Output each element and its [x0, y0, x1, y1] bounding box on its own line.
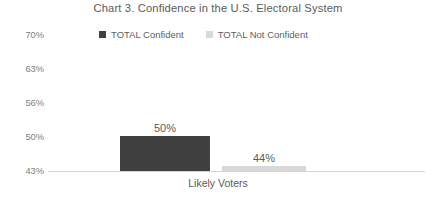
x-axis-line: [48, 171, 425, 172]
y-axis-tick-labels: 70% 63% 56% 50% 43%: [0, 0, 44, 200]
chart-container: Chart 3. Confidence in the U.S. Electora…: [0, 0, 436, 200]
y-axis-tick: 56%: [4, 98, 44, 108]
bar-value-label: 50%: [154, 122, 176, 134]
plot-area: 50% 44%: [48, 35, 425, 171]
y-axis-tick: 50%: [4, 132, 44, 142]
y-axis-tick: 63%: [4, 64, 44, 74]
y-axis-tick: 70%: [4, 30, 44, 40]
y-axis-tick: 43%: [4, 166, 44, 176]
chart-title: Chart 3. Confidence in the U.S. Electora…: [0, 2, 436, 14]
bar-total-confident[interactable]: [120, 136, 210, 171]
x-axis-category-label: Likely Voters: [0, 177, 436, 189]
bar-value-label: 44%: [253, 152, 275, 164]
